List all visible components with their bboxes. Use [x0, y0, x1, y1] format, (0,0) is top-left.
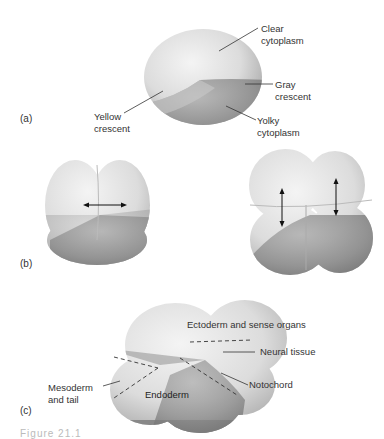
label-gray-crescent: Gray crescent [275, 79, 311, 102]
panel-b-marker: (b) [20, 258, 32, 269]
two-cell-embryo [40, 150, 165, 270]
label-notochord: Notochord [249, 379, 293, 391]
panel-a-marker: (a) [20, 113, 32, 124]
label-yellow-crescent: Yellow crescent [94, 111, 130, 134]
figure-caption: Figure 21.1 [20, 428, 82, 439]
panel-c-marker: (c) [20, 405, 32, 416]
uncleaved-egg [124, 28, 273, 140]
label-neural-tissue: Neural tissue [260, 346, 315, 358]
four-cell-embryo [240, 145, 380, 280]
label-clear-cytoplasm: Clear cytoplasm [261, 23, 304, 46]
label-endoderm: Endoderm [145, 389, 189, 401]
label-ectoderm: Ectoderm and sense organs [187, 319, 306, 331]
fate-map-embryo [100, 295, 300, 435]
label-yolky-cytoplasm: Yolky cytoplasm [257, 115, 300, 138]
label-mesoderm: Mesoderm and tail [48, 382, 93, 405]
